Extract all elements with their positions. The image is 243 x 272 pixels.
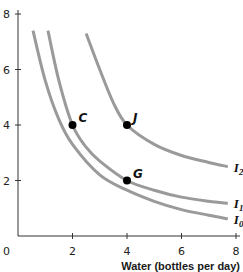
point-label-c: C <box>79 111 88 125</box>
indifference-curve-chart: 2468 2468 0 Water (bottles per day) I0I1… <box>0 0 243 272</box>
y-tick-label: 4 <box>3 119 10 132</box>
x-tick-label: 6 <box>178 245 185 258</box>
point-g <box>123 177 131 185</box>
origin-label: 0 <box>3 245 10 258</box>
x-tick-label: 2 <box>69 245 76 258</box>
point-label-g: G <box>133 167 143 181</box>
curve-label-i1: I1 <box>233 196 243 213</box>
x-axis-title: Water (bottles per day) <box>121 260 240 272</box>
x-tick-label: 8 <box>233 245 240 258</box>
point-j <box>123 121 131 129</box>
data-points: CJG <box>69 111 144 185</box>
y-tick-label: 2 <box>3 175 10 188</box>
y-tick-label: 6 <box>3 64 10 77</box>
y-tick-label: 8 <box>3 8 10 21</box>
point-c <box>69 121 77 129</box>
curve-label-i2: I2 <box>233 160 243 177</box>
x-tick-label: 4 <box>124 245 131 258</box>
curve-i2 <box>86 33 228 166</box>
curve-label-i0: I0 <box>233 212 243 229</box>
x-ticks: 2468 <box>69 233 240 258</box>
point-label-j: J <box>131 111 138 125</box>
indifference-curves: I0I1I2 <box>33 31 243 229</box>
